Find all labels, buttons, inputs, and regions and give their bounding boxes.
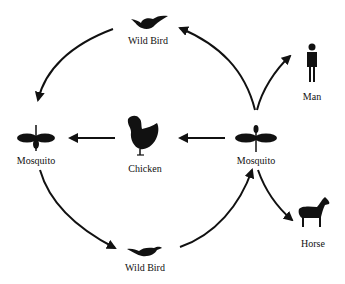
arrow-mosquito-right-to-man: [257, 56, 290, 110]
node-label-mosquito-left: Mosquito: [17, 155, 55, 166]
arrow-wildbird-bottom-to-mosquito-right: [180, 170, 252, 247]
arrow-mosquito-left-to-wildbird-bottom: [40, 170, 115, 248]
node-label-wild-bird-bottom: Wild Bird: [125, 262, 165, 273]
node-label-wild-bird-top: Wild Bird: [128, 35, 168, 46]
node-label-man: Man: [303, 91, 321, 102]
node-label-horse: Horse: [301, 238, 325, 249]
mosquito-icon: [235, 125, 277, 152]
arrow-mosquito-right-to-wildbird: [180, 28, 255, 110]
mosquito-icon: [17, 125, 55, 151]
man-icon: [307, 44, 317, 83]
node-label-chicken: Chicken: [128, 163, 161, 174]
arrow-wildbird-to-mosquito-left: [38, 29, 113, 100]
bird-icon: [131, 16, 168, 29]
arrow-mosquito-right-to-horse: [258, 170, 292, 220]
bird-icon: [127, 247, 162, 256]
node-label-mosquito-right: Mosquito: [237, 155, 275, 166]
chicken-icon: [128, 116, 159, 155]
horse-icon: [299, 197, 330, 227]
diagram-canvas: [0, 0, 345, 284]
